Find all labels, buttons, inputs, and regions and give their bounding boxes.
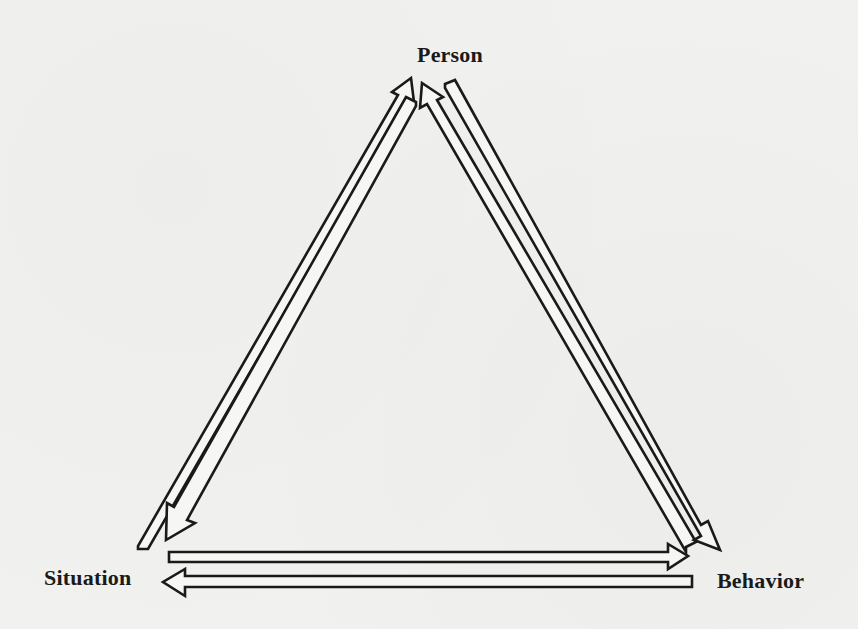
node-label-behavior: Behavior (717, 568, 804, 594)
arrow-behavior-to-person (420, 83, 696, 552)
arrow-behavior-to-situation (163, 569, 692, 596)
arrow-situation-to-behavior (169, 544, 688, 569)
arrow-person-to-situation (166, 97, 416, 540)
arrow-person-to-behavior (445, 80, 720, 550)
scanned-page: Person Situation Behavior (0, 0, 858, 629)
arrow-situation-to-person (138, 78, 414, 549)
node-label-person: Person (417, 42, 483, 68)
reciprocal-arrows-diagram (0, 0, 858, 629)
node-label-situation: Situation (44, 565, 131, 591)
